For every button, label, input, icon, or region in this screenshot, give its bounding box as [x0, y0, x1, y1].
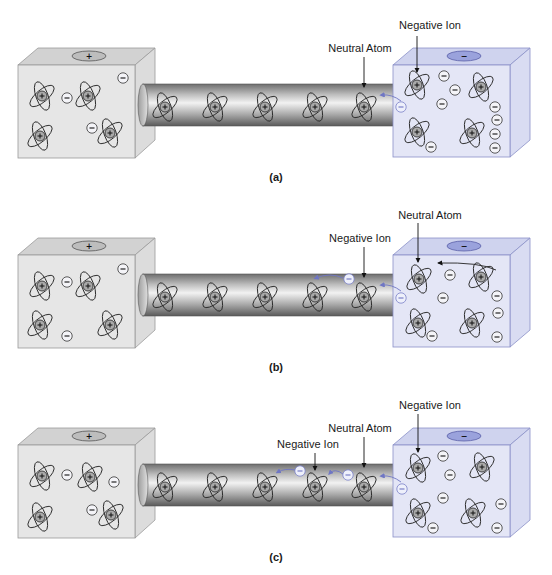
negative-charge: [438, 451, 448, 461]
annotation-text: Neutral Atom: [328, 422, 392, 434]
panel-b: +−Neutral AtomNegative Ion(b): [18, 209, 530, 373]
negative-terminal-icon: −: [447, 51, 481, 61]
conductor-wire: [138, 464, 395, 506]
negative-charge: [490, 102, 500, 112]
negative-charge: [437, 99, 447, 109]
negative-charge: [493, 308, 503, 318]
free-electron: [295, 466, 305, 476]
free-electron: [396, 102, 406, 112]
annotation-text: Neutral Atom: [328, 42, 392, 54]
terminal-sign: −: [461, 242, 468, 251]
conductor-wire: [138, 84, 395, 126]
terminal-sign: −: [461, 52, 468, 61]
negative-charge: [496, 499, 506, 509]
negative-charge: [490, 129, 500, 139]
wire-end-cap: [138, 464, 148, 506]
annotation-label: Neutral Atom: [328, 42, 392, 87]
positive-terminal-block: +: [18, 428, 155, 538]
negative-charge: [428, 523, 438, 533]
negative-charge: [62, 331, 72, 341]
terminal-sign: −: [461, 432, 468, 441]
negative-terminal-block: −: [393, 428, 530, 537]
annotation-text: Negative Ion: [277, 438, 339, 450]
wire-end-cap: [138, 84, 148, 126]
annotation-label: Negative Ion: [329, 232, 391, 277]
panel-a: +−Negative IonNeutral Atom(a): [18, 19, 530, 183]
negative-charge: [445, 470, 455, 480]
conductor-wire: [138, 274, 395, 316]
free-electron: [344, 274, 354, 284]
negative-charge: [445, 270, 455, 280]
annotation-text: Negative Ion: [329, 232, 391, 244]
negative-charge: [87, 123, 97, 133]
negative-charge: [439, 71, 449, 81]
negative-charge: [438, 293, 448, 303]
negative-charge: [450, 85, 460, 95]
positive-terminal-block: +: [18, 238, 155, 348]
panel-caption: (a): [269, 171, 283, 183]
negative-charge: [427, 331, 437, 341]
terminal-sign: +: [86, 52, 93, 61]
positive-terminal-icon: +: [72, 431, 106, 441]
negative-charge: [492, 115, 502, 125]
annotation-text: Negative Ion: [399, 399, 461, 411]
negative-terminal-block: −: [393, 238, 530, 347]
negative-charge: [492, 291, 502, 301]
terminal-sign: +: [86, 242, 93, 251]
negative-charge: [426, 142, 436, 152]
negative-charge: [62, 93, 72, 103]
negative-charge: [490, 143, 500, 153]
panel-c: +−Negative IonNeutral AtomNegative Ion(c…: [18, 399, 530, 563]
negative-charge: [62, 470, 72, 480]
free-electron: [397, 484, 407, 494]
free-electron: [396, 293, 406, 303]
annotation-text: Neutral Atom: [398, 209, 462, 221]
wire-end-cap: [138, 274, 148, 316]
negative-charge: [492, 332, 502, 342]
panel-caption: (b): [269, 361, 283, 373]
positive-terminal-icon: +: [72, 51, 106, 61]
free-electron: [343, 470, 353, 480]
negative-charge: [109, 477, 119, 487]
negative-charge: [118, 73, 128, 83]
negative-terminal-icon: −: [447, 431, 481, 441]
positive-terminal-block: +: [18, 48, 155, 158]
negative-charge: [62, 277, 72, 287]
negative-charge: [438, 493, 448, 503]
panel-caption: (c): [269, 551, 283, 563]
negative-terminal-icon: −: [447, 241, 481, 251]
negative-charge: [118, 264, 128, 274]
terminal-sign: +: [86, 432, 93, 441]
positive-terminal-icon: +: [72, 241, 106, 251]
negative-charge: [87, 505, 97, 515]
annotation-text: Negative Ion: [399, 19, 461, 31]
negative-charge: [492, 523, 502, 533]
negative-terminal-block: −: [393, 48, 530, 157]
diagram-canvas: +−Negative IonNeutral Atom(a)+−Neutral A…: [0, 0, 552, 575]
